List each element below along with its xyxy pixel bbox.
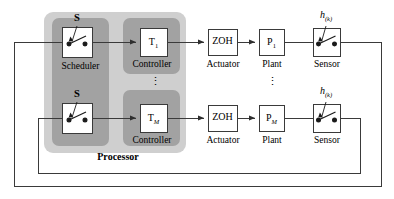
actuator-caption-1: Actuator [196,60,250,70]
block-diagram: S S Scheduler T1 TM Controller Controlle… [0,0,394,199]
plant-column-ellipsis: ⋮ [267,76,277,87]
controller-caption-2: Controller [122,136,182,146]
plant-box-label-2: PM [259,113,284,126]
switch-label-1: S [62,13,92,24]
actuator-box-label-2: ZOH [208,112,237,122]
sensor-caption-1: Sensor [306,60,348,70]
plant-box-subscript-2: M [272,118,277,125]
plant-box-subscript-1: 1 [273,42,276,49]
scheduler-caption: Scheduler [47,62,114,72]
controller-box-label-2: TM [140,113,167,126]
plant-caption-2: Plant [252,136,292,146]
wiring-layer [0,0,394,199]
controller-box-subscript-2: M [154,118,159,125]
sensor-trigger-subscript-1: (k) [325,15,332,22]
sensor-trigger-label-2: h(k) [306,86,346,99]
switch-box-2 [62,103,92,133]
switch-box-1 [62,27,92,57]
sensor-caption-2: Sensor [306,136,348,146]
processor-caption: Processor [78,152,158,162]
actuator-box-label-1: ZOH [208,36,237,46]
controller-column-ellipsis: ⋮ [150,76,160,87]
plant-box-label-1: P1 [259,37,284,50]
sensor-trigger-subscript-2: (k) [325,91,332,98]
controller-box-subscript-1: 1 [155,42,158,49]
controller-caption-1: Controller [122,60,182,70]
controller-box-label-1: T1 [140,37,167,50]
sensor-trigger-label-1: h(k) [306,10,346,23]
actuator-caption-2: Actuator [196,136,250,146]
plant-caption-1: Plant [252,60,292,70]
switch-label-2: S [62,89,92,100]
